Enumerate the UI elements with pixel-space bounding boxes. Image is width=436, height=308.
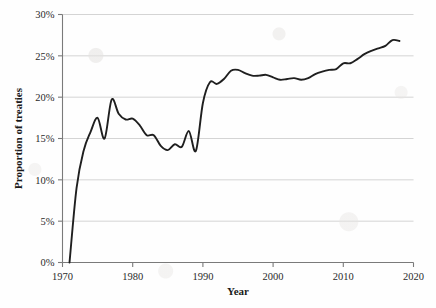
y-axis-title: Proportion of treaties	[12, 87, 24, 189]
chart-container: 0%5%10%15%20%25%30% 19701980199020002010…	[0, 0, 436, 308]
x-axis-title: Year	[227, 285, 249, 297]
gridlines-group	[63, 15, 414, 222]
x-tick-label: 2000	[263, 271, 284, 282]
x-tick-label: 2020	[403, 271, 424, 282]
y-tick-label: 15%	[35, 133, 55, 144]
x-tick-label: 1970	[52, 271, 73, 282]
y-tick-label: 25%	[35, 51, 55, 62]
data-series-line	[70, 40, 400, 263]
y-tick-label: 5%	[41, 216, 55, 227]
line-chart: 0%5%10%15%20%25%30% 19701980199020002010…	[0, 0, 436, 308]
x-axis-ticks-group: 197019801990200020102020	[52, 263, 424, 282]
y-axis-ticks-group: 0%5%10%15%20%25%30%	[35, 9, 62, 268]
y-tick-label: 10%	[35, 175, 55, 186]
y-tick-label: 30%	[35, 9, 55, 20]
x-tick-label: 1990	[192, 271, 213, 282]
y-tick-label: 0%	[41, 257, 55, 268]
x-tick-label: 1980	[122, 271, 143, 282]
y-tick-label: 20%	[35, 92, 55, 103]
x-tick-label: 2010	[333, 271, 354, 282]
